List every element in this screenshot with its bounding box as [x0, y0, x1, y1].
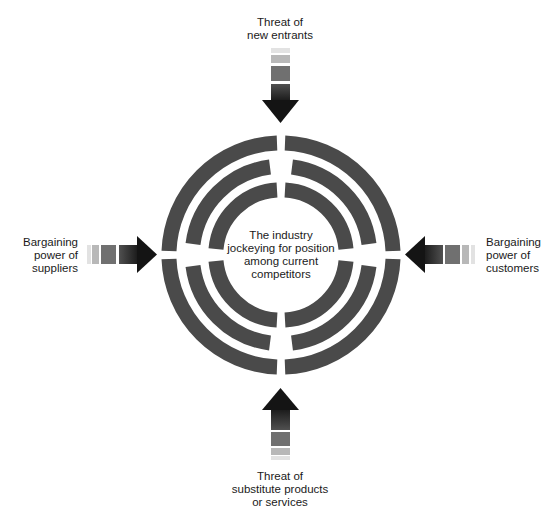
label-line: power of [0, 249, 78, 262]
label-line: Threat of [230, 16, 330, 29]
label-line: The industry [221, 229, 341, 242]
label-line: Bargaining [0, 236, 78, 249]
label-line: among current [221, 255, 341, 268]
force-label-customers: Bargaining power of customers [486, 236, 559, 275]
arrow-up-icon [262, 388, 299, 460]
label-line: new entrants [230, 29, 330, 42]
force-label-suppliers: Bargaining power of suppliers [0, 236, 78, 275]
label-line: or services [200, 496, 360, 509]
label-line: suppliers [0, 262, 78, 275]
label-line: competitors [221, 268, 341, 281]
label-line: customers [486, 262, 559, 275]
force-label-new-entrants: Threat of new entrants [230, 16, 330, 42]
arrow-left-icon [405, 236, 475, 273]
arrow-down-icon [262, 48, 299, 123]
force-label-substitutes: Threat of substitute products or service… [200, 470, 360, 509]
center-label-industry-rivalry: The industry jockeying for position amon… [221, 229, 341, 281]
label-line: power of [486, 249, 559, 262]
arrow-right-icon [87, 236, 157, 273]
label-line: Threat of [200, 470, 360, 483]
label-line: Bargaining [486, 236, 559, 249]
label-line: jockeying for position [221, 242, 341, 255]
label-line: substitute products [200, 483, 360, 496]
